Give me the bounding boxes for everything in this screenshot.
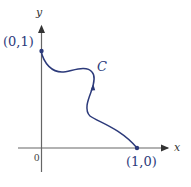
point-1-0 bbox=[135, 146, 139, 150]
origin-label: 0 bbox=[34, 151, 40, 163]
curve-label: C bbox=[97, 59, 107, 74]
curve-diagram: y x 0 (0,1) (1,0) C bbox=[0, 0, 191, 187]
point-label-0-1: (0,1) bbox=[3, 34, 34, 49]
curve-c bbox=[41, 51, 137, 148]
direction-arrow-icon bbox=[91, 84, 96, 91]
x-axis-label: x bbox=[174, 141, 181, 154]
point-label-1-0: (1,0) bbox=[126, 154, 157, 169]
y-axis-label: y bbox=[35, 6, 43, 19]
point-0-1 bbox=[39, 49, 43, 53]
